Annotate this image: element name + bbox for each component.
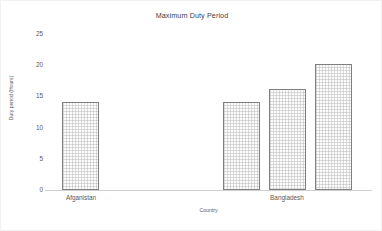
x-category-label-bangladesh: Bangladesh [258, 194, 316, 201]
bar-bangladesh-3[interactable] [315, 64, 352, 190]
chart-title: Maximum Duty Period [1, 11, 382, 20]
x-axis-line [45, 190, 372, 191]
y-tick-label-0: 0 [17, 187, 43, 193]
bar-afganistan-1[interactable] [62, 102, 99, 190]
chart-container: Maximum Duty Period 25 20 15 10 5 0 Duty… [0, 0, 382, 231]
y-tick-label-20: 20 [17, 62, 43, 68]
y-tick-label-15: 15 [17, 93, 43, 99]
y-tick-label-25: 25 [17, 31, 43, 37]
bar-bangladesh-2[interactable] [269, 89, 306, 190]
y-tick-label-10: 10 [17, 125, 43, 131]
y-tick-label-5: 5 [17, 156, 43, 162]
y-axis-title: Duty period (Hours) [8, 68, 14, 128]
x-category-label-afganistan: Afganistan [52, 194, 110, 201]
x-axis-title: Country [45, 207, 372, 213]
y-axis-tick-labels: 25 20 15 10 5 0 [11, 1, 43, 231]
bar-bangladesh-1[interactable] [223, 102, 260, 190]
